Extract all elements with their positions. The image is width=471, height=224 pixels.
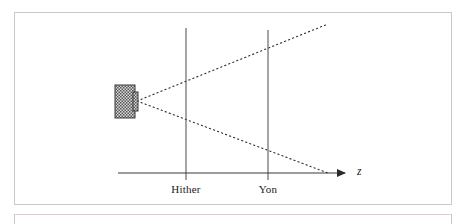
yon-plane-label: Yon: [259, 183, 277, 195]
z-axis-label: z: [357, 165, 361, 177]
next-figure-border: [14, 214, 452, 224]
camera-body: [115, 85, 135, 118]
hither-plane-label: Hither: [171, 183, 200, 195]
lower-frustum-ray: [137, 101, 328, 173]
camera-lens-icon: [133, 92, 138, 111]
frustum-diagram: [0, 0, 471, 224]
upper-frustum-ray: [137, 24, 328, 101]
figure-root: Hither Yon z: [0, 0, 471, 224]
